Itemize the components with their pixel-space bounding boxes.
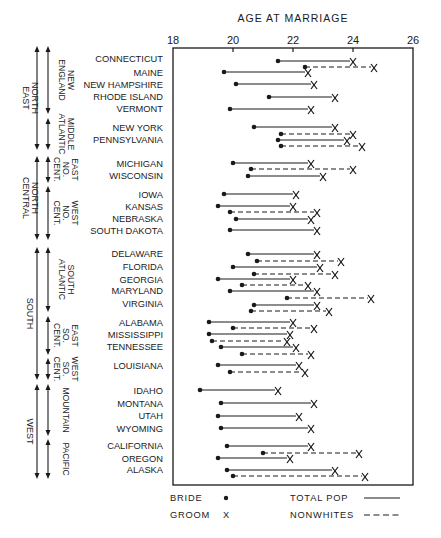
bride-dot-marker <box>222 192 227 197</box>
groom-x-marker <box>320 173 326 181</box>
groom-x-marker <box>314 227 320 235</box>
state-label: ALASKA <box>127 465 164 475</box>
arrow-up-icon <box>35 384 40 390</box>
bride-dot-marker <box>219 401 224 406</box>
state-label: RHODE ISLAND <box>93 92 163 102</box>
region-label: SOUTH <box>25 298 35 330</box>
groom-x-marker <box>296 413 302 421</box>
arrow-up-icon <box>46 384 51 390</box>
arrow-up-icon <box>35 247 40 253</box>
region-label: NORTHEAST <box>21 82 40 114</box>
region-bracket: NORTHCENTRAL <box>21 156 40 240</box>
groom-x-marker <box>332 271 338 279</box>
groom-x-marker <box>293 344 299 352</box>
groom-x-marker <box>350 166 356 174</box>
bride-dot-marker <box>216 456 221 461</box>
bride-dot-marker <box>279 144 284 149</box>
groom-x-marker <box>356 450 362 458</box>
bride-dot-marker <box>210 339 215 344</box>
state-label: OREGON <box>122 454 163 464</box>
groom-x-marker <box>290 319 296 327</box>
state-label: SOUTH DAKOTA <box>90 226 163 236</box>
arrow-down-icon <box>35 473 40 479</box>
x-tick-label: 18 <box>167 34 179 46</box>
bride-dot-marker <box>234 217 239 222</box>
arrow-down-icon <box>46 144 51 150</box>
bride-dot-marker <box>228 210 233 215</box>
bride-dot-marker <box>228 228 233 233</box>
division-label: EASTSO.CENT. <box>52 323 80 348</box>
arrow-up-icon <box>35 156 40 162</box>
bride-dot-marker <box>207 332 212 337</box>
arrow-down-icon <box>35 234 40 240</box>
x-axis-ticks: 1820222426 <box>167 34 419 52</box>
region-label: NORTHCENTRAL <box>21 177 40 219</box>
x-tick-label: 26 <box>407 34 419 46</box>
arrow-up-icon <box>46 358 51 364</box>
bride-dot-marker <box>246 252 251 257</box>
groom-x-marker <box>284 338 290 346</box>
groom-x-marker <box>308 160 314 168</box>
bride-dot-marker <box>276 59 281 64</box>
bride-dot-marker <box>285 296 290 301</box>
arrow-up-icon <box>46 186 51 192</box>
arrow-up-icon <box>46 247 51 253</box>
groom-x-marker <box>368 295 374 303</box>
groom-x-marker <box>350 58 356 66</box>
region-brackets: NORTHEASTNEWENGLANDMIDDLEATLANTICNORTHCE… <box>21 46 81 479</box>
bride-dot-marker <box>231 326 236 331</box>
state-label: PENNSYLVANIA <box>93 135 164 145</box>
groom-x-marker <box>305 282 311 290</box>
state-label: FLORIDA <box>123 262 164 272</box>
bride-dot-marker <box>216 363 221 368</box>
state-label: KANSAS <box>125 202 163 212</box>
groom-x-marker <box>338 258 344 266</box>
bride-dot-marker <box>252 272 257 277</box>
division-label: MOUNTAIN <box>61 387 71 432</box>
bride-dot-marker <box>255 259 260 264</box>
groom-x-marker <box>314 302 320 310</box>
groom-x-marker <box>314 251 320 259</box>
bride-dot-marker <box>249 309 254 314</box>
groom-x-marker <box>308 425 314 433</box>
legend-bride-label: BRIDE <box>170 493 202 503</box>
bride-dot-marker <box>231 161 236 166</box>
legend-total-pop-label: TOTAL POP <box>290 493 348 503</box>
state-label: MAINE <box>134 68 163 78</box>
groom-x-marker <box>296 362 302 370</box>
bride-dot-marker <box>240 283 245 288</box>
state-label: IOWA <box>139 190 164 200</box>
bride-dot-marker <box>234 82 239 87</box>
arrow-down-icon <box>46 349 51 355</box>
groom-x-marker <box>371 64 377 72</box>
groom-x-marker <box>311 81 317 89</box>
state-label: CONNECTICUT <box>95 54 163 64</box>
state-label: MONTANA <box>117 399 164 409</box>
bride-dot-marker <box>276 138 281 143</box>
legend-nonwhites-label: NONWHITES <box>290 510 354 520</box>
bride-dot-marker <box>246 174 251 179</box>
bride-dot-marker <box>267 95 272 100</box>
state-label: LOUISIANA <box>113 361 163 371</box>
bride-dot-marker <box>252 125 257 130</box>
groom-x-marker <box>293 191 299 199</box>
state-label: NEBRASKA <box>112 214 163 224</box>
x-tick-label: 20 <box>227 34 239 46</box>
arrow-down-icon <box>35 144 40 150</box>
bride-dot-marker <box>240 352 245 357</box>
age-at-marriage-chart: AGE AT MARRIAGE 1820222426 NORTHEASTNEWE… <box>0 0 441 538</box>
state-label: DELAWARE <box>112 249 164 259</box>
bride-dot-marker <box>222 70 227 75</box>
division-label: NEWENGLAND <box>57 59 76 101</box>
groom-x-marker <box>308 216 314 224</box>
division-label: WESTNO.CENT. <box>52 201 80 227</box>
arrow-up-icon <box>46 156 51 162</box>
bride-dot-marker <box>279 132 284 137</box>
groom-x-marker <box>314 209 320 217</box>
state-label: NEW HAMPSHIRE <box>83 80 163 90</box>
state-label: WYOMING <box>117 424 163 434</box>
division-label: WESTSO.CENT. <box>52 357 80 383</box>
groom-x-marker <box>302 369 308 377</box>
bride-dot-marker <box>219 345 224 350</box>
groom-x-marker <box>290 203 296 211</box>
